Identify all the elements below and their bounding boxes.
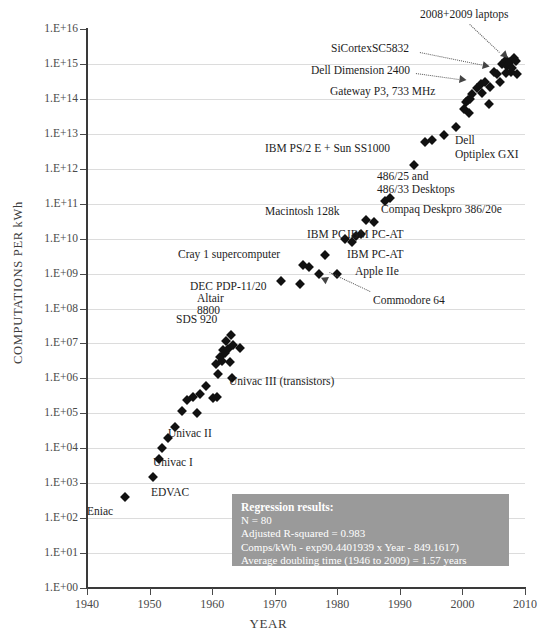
x-axis-tick [400,588,401,595]
annotation-label: Cray 1 supercomputer [178,248,280,261]
x-axis-tick [462,588,463,595]
y-axis-tick-label: 1.E+03 [16,477,78,488]
x-axis-tick-label: 1950 [120,597,180,612]
data-point [409,160,419,170]
x-axis-tick-label: 2010 [495,597,542,612]
y-axis-tick-label: 1.E+13 [16,128,78,139]
annotation-label: 2008+2009 laptops [420,8,509,21]
annotation-label: 486/33 Desktops [377,183,455,196]
x-axis-tick-label: 2000 [432,597,492,612]
regression-equation: Comps/kWh - exp90.4401939 x Year - 849.1… [241,541,500,554]
leader-arrowhead [459,75,467,84]
annotation-label: Optiplex GXI [455,148,519,161]
regression-title: Regression results: [241,500,500,514]
annotation-label: Apple IIe [355,265,399,278]
annotation-label: EDVAC [151,486,189,499]
annotation-label: Macintosh 128k [265,205,339,218]
annotation-label: 486/25 and [377,170,428,183]
y-axis-tick-label: 1.E+02 [16,512,78,523]
data-point [276,276,286,286]
annotation-label: IBM PC-AT [347,248,404,261]
annotation-label: Univac II [168,427,212,440]
x-axis-tick-label: 1960 [182,597,242,612]
annotation-label: IBM PS/2 E + Sun SS1000 [265,142,390,155]
annotation-label: SiCortexSC5832 [331,42,409,55]
annotation-label: IBM PC [307,228,346,241]
data-point [148,472,158,482]
y-axis-title: COMPUTATIONS PER kWh [11,153,26,413]
data-point [439,130,449,140]
y-axis-tick-label: 1.E+14 [16,93,78,104]
x-axis-tick [150,588,151,595]
data-point [484,99,494,109]
annotation-label: Commodore 64 [373,294,445,307]
annotation-label: Eniac [87,505,113,518]
annotation-label: Univac I [153,456,193,469]
y-axis-tick-label: 1.E+00 [16,582,78,593]
annotation-label: Gateway P3, 733 MHz [330,85,435,98]
data-point [225,357,235,367]
annotation-label: SDS 920 [176,313,217,326]
annotation-label: Univac III (transistors) [229,375,334,388]
x-axis-title: YEAR [0,616,537,632]
x-axis-tick [87,588,88,595]
data-point [451,122,461,132]
y-axis-tick-label: 1.E+16 [16,23,78,34]
x-axis-tick [212,588,213,595]
annotation-label: Compaq Deskpro 386/20e [381,203,502,216]
y-axis-tick-label: 1.E+15 [16,58,78,69]
data-point [120,492,130,502]
regression-doubling-time: Average doubling time (1946 to 2009) = 1… [241,554,500,567]
y-axis-tick-label: 1.E+04 [16,442,78,453]
data-point [177,406,187,416]
x-axis-tick [275,588,276,595]
data-point [477,88,487,98]
annotation-label: Dell [455,134,475,147]
data-point [192,408,202,418]
regression-results-box: Regression results: N = 80 Adjusted R-sq… [232,494,509,566]
annotation-label: Dell Dimension 2400 [311,64,410,77]
data-point [295,279,305,289]
data-point [201,381,211,391]
x-axis-tick-label: 1990 [370,597,430,612]
annotation-label: IBM PC-AT [347,228,404,241]
data-point [157,443,167,453]
data-point [213,369,223,379]
x-axis-tick [525,588,526,595]
x-axis-tick-label: 1970 [245,597,305,612]
x-axis-tick-label: 1980 [307,597,367,612]
x-axis-tick [337,588,338,595]
data-point [495,77,505,87]
y-axis-tick-label: 1.E+01 [16,547,78,558]
data-point [320,250,330,260]
data-point [427,135,437,145]
regression-r-squared: Adjusted R-squared = 0.983 [241,527,500,540]
regression-n: N = 80 [241,514,500,527]
data-point [513,70,523,80]
x-axis-tick-label: 1940 [57,597,117,612]
